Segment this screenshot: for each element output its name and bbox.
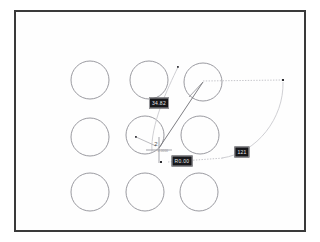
drawing-frame [14, 10, 306, 232]
dimension-label-top[interactable]: 34.82 [149, 98, 169, 109]
dimension-label-mid[interactable]: R0.00 [172, 156, 193, 167]
dimension-label-right[interactable]: 121 [234, 147, 249, 158]
drawing-canvas[interactable]: 34.82 R0.00 121 2 0.0000 [0, 0, 320, 242]
cursor-annotation-number: 2 [154, 141, 157, 147]
cursor-coordinate-readout: 0.0000 [158, 149, 168, 153]
